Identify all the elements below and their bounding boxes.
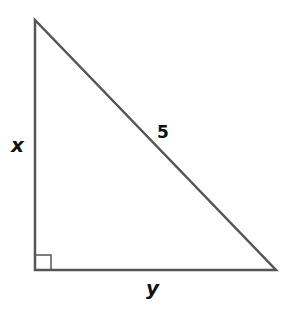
- right-angle-marker: [35, 255, 51, 270]
- right-triangle-diagram: x 5 y: [0, 0, 296, 319]
- label-y: y: [146, 276, 160, 300]
- label-x: x: [10, 133, 25, 157]
- label-hypotenuse: 5: [157, 122, 169, 142]
- triangle: [35, 20, 276, 270]
